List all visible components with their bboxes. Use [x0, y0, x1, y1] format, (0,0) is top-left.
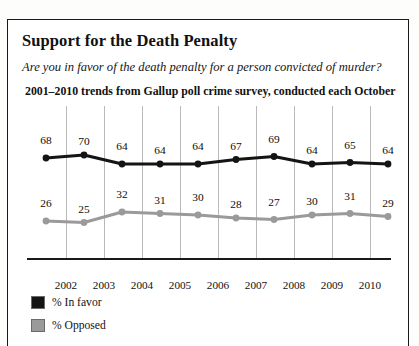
data-point [43, 218, 50, 225]
data-point-label: 64 [382, 144, 393, 156]
data-point-label: 30 [306, 195, 317, 207]
data-point [309, 161, 316, 168]
data-point [385, 161, 392, 168]
data-point [233, 156, 240, 163]
legend-swatch-in-favor [31, 296, 45, 309]
markers-series-in-favor [43, 152, 392, 168]
data-point-label: 25 [78, 203, 89, 215]
data-point [347, 159, 354, 166]
data-point-label: 69 [268, 133, 279, 145]
data-point-label: 28 [230, 198, 241, 210]
data-point-label: 64 [154, 144, 165, 156]
data-point-label: 30 [192, 191, 203, 203]
data-point [195, 212, 202, 219]
legend-item-label: % In favor [52, 296, 102, 309]
data-point-label: 26 [40, 197, 51, 209]
data-point [309, 212, 316, 219]
legend-swatch-opposed [31, 319, 45, 332]
data-point-label: 64 [306, 144, 317, 156]
data-point [119, 209, 126, 216]
data-point [195, 161, 202, 168]
data-point-label: 27 [268, 196, 279, 208]
data-point-label: 64 [116, 140, 127, 152]
data-point-label: 67 [230, 140, 241, 152]
chart-plot-area: 6870646464676964656426253231302827303129 [8, 106, 408, 276]
chart-legend: % In favor% Opposed [31, 293, 106, 339]
data-point [157, 161, 164, 168]
figure-question: Are you in favor of the death penalty fo… [22, 60, 382, 75]
legend-item[interactable]: % Opposed [31, 316, 106, 335]
data-point [233, 215, 240, 222]
x-tick-label: 2002 [55, 279, 77, 291]
x-tick-label: 2009 [321, 279, 343, 291]
x-tick-label: 2010 [359, 279, 381, 291]
data-point [81, 152, 88, 159]
x-tick-label: 2008 [283, 279, 305, 291]
line-series-opposed [46, 212, 388, 223]
data-point [271, 216, 278, 223]
data-point-label: 70 [78, 135, 89, 147]
figure-frame: Support for the Death Penalty Are you in… [7, 19, 409, 346]
page-title: Support for the Death Penalty [22, 31, 237, 51]
figure-source-note: 2001–2010 trends from Gallup poll crime … [25, 84, 395, 99]
figure-page: Support for the Death Penalty Are you in… [0, 0, 419, 346]
data-point-label: 32 [116, 188, 127, 200]
legend-item-label: % Opposed [52, 319, 106, 332]
data-point-label: 64 [192, 140, 203, 152]
x-tick-label: 2007 [245, 279, 267, 291]
data-point-label: 31 [154, 194, 165, 206]
data-point-label: 31 [344, 190, 355, 202]
data-point [157, 210, 164, 217]
data-point-label: 29 [382, 197, 393, 209]
data-point [81, 219, 88, 226]
data-point [385, 213, 392, 220]
line-series-in-favor [46, 155, 388, 164]
data-point [43, 155, 50, 162]
x-tick-label: 2005 [169, 279, 191, 291]
data-point-label: 68 [40, 134, 51, 146]
x-tick-label: 2006 [207, 279, 229, 291]
data-point [347, 210, 354, 217]
data-point [271, 153, 278, 160]
legend-item[interactable]: % In favor [31, 293, 106, 312]
data-point-label: 65 [344, 139, 355, 151]
x-axis-rule [27, 258, 391, 260]
x-tick-label: 2003 [93, 279, 115, 291]
x-tick-label: 2004 [131, 279, 153, 291]
data-point [119, 161, 126, 168]
